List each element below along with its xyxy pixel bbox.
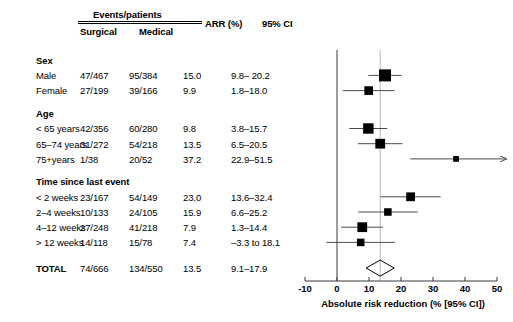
- row-surgical-2-weeks: 23/167: [80, 192, 108, 203]
- header-events-patients: Events/patients: [93, 9, 162, 20]
- row-medical-12-weeks: 15/78: [129, 237, 152, 248]
- forest-row-12-weeks: [326, 239, 394, 247]
- row-arr-male: 15.0: [183, 70, 201, 81]
- point-estimate-marker: [357, 222, 367, 232]
- row-arr-female: 9.9: [183, 85, 196, 96]
- group-title-time-since-last-event: Time since last event: [36, 176, 129, 187]
- header-col-surgical: Surgical: [80, 26, 117, 37]
- row-label-4-12-weeks: 4–12 weeks: [36, 222, 86, 233]
- row-ci-75-years: 22.9–51.5: [231, 154, 272, 165]
- x-axis-tick-label: 10: [364, 283, 375, 294]
- row-ci-12-weeks: –3.3 to 18.1: [231, 237, 280, 248]
- forest-row-65-74-years: [358, 139, 403, 149]
- row-medical-65-74-years: 54/218: [129, 139, 157, 150]
- row-surgical-total: 74/666: [80, 263, 108, 274]
- row-label-male: Male: [36, 70, 56, 81]
- total-summary-diamond: [366, 260, 394, 276]
- x-axis-tick-label: 40: [460, 283, 471, 294]
- row-arr-75-years: 37.2: [183, 154, 201, 165]
- row-arr-2-4-weeks: 15.9: [183, 207, 201, 218]
- row-surgical-12-weeks: 14/118: [80, 237, 108, 248]
- group-title-sex: Sex: [36, 55, 53, 66]
- forest-plot-table: Events/patients Surgical Medical ARR (%)…: [0, 0, 320, 322]
- row-medical-total: 134/550: [129, 263, 163, 274]
- forest-row-2-4-weeks: [358, 208, 418, 216]
- x-axis-tick-label: 20: [396, 283, 407, 294]
- row-surgical-male: 47/467: [80, 70, 108, 81]
- row-label-2-weeks: < 2 weeks: [36, 192, 78, 203]
- row-ci-2-4-weeks: 6.6–25.2: [231, 207, 267, 218]
- header-col-medical: Medical: [139, 26, 173, 37]
- row-ci-total: 9.1–17.9: [231, 263, 267, 274]
- row-label-75-years: 75+years: [36, 154, 75, 165]
- row-surgical-75-years: 1/38: [80, 154, 98, 165]
- header-rule-bottom: [78, 23, 202, 24]
- row-arr-65-74-years: 13.5: [183, 139, 201, 150]
- point-estimate-marker: [364, 86, 373, 95]
- point-estimate-marker: [363, 123, 373, 133]
- row-arr-total: 13.5: [183, 263, 201, 274]
- row-surgical-female: 27/199: [80, 85, 108, 96]
- forest-row-female: [343, 86, 395, 95]
- row-medical-4-12-weeks: 41/218: [129, 222, 157, 233]
- row-label-2-4-weeks: 2–4 weeks: [36, 207, 81, 218]
- row-ci-4-12-weeks: 1.3–14.4: [231, 222, 267, 233]
- point-estimate-marker: [453, 156, 459, 162]
- row-label-65-years: < 65 years: [36, 123, 80, 134]
- row-ci-65-years: 3.8–15.7: [231, 123, 267, 134]
- row-arr-12-weeks: 7.4: [183, 237, 196, 248]
- point-estimate-marker: [379, 69, 391, 81]
- row-ci-65-74-years: 6.5–20.5: [231, 139, 267, 150]
- header-rule-top: [78, 21, 202, 22]
- row-ci-female: 1.8–18.0: [231, 85, 267, 96]
- point-estimate-marker: [384, 208, 392, 216]
- row-medical-male: 95/384: [129, 70, 157, 81]
- row-arr-4-12-weeks: 7.9: [183, 222, 196, 233]
- row-medical-75-years: 20/52: [129, 154, 152, 165]
- forest-row-65-years: [349, 123, 387, 133]
- row-arr-65-years: 9.8: [183, 123, 196, 134]
- row-surgical-4-12-weeks: 27/248: [80, 222, 108, 233]
- forest-row-male: [368, 69, 401, 81]
- row-medical-2-4-weeks: 24/105: [129, 207, 157, 218]
- forest-row-4-12-weeks: [341, 222, 383, 232]
- x-axis-title: Absolute risk reduction (% [95% CI]): [321, 298, 485, 309]
- forest-row-2-weeks: [381, 192, 441, 201]
- row-surgical-65-years: 42/356: [80, 123, 108, 134]
- row-label-female: Female: [36, 85, 67, 96]
- point-estimate-marker: [375, 139, 385, 149]
- row-arr-2-weeks: 23.0: [183, 192, 201, 203]
- row-surgical-65-74-years: 31/272: [80, 139, 108, 150]
- group-title-age: Age: [36, 108, 54, 119]
- point-estimate-marker: [357, 239, 365, 247]
- row-label-total: TOTAL: [36, 263, 66, 274]
- x-axis-tick-label: 30: [428, 283, 439, 294]
- forest-row-75-years: [410, 156, 506, 162]
- row-label-12-weeks: > 12 weeks: [36, 237, 83, 248]
- row-medical-65-years: 60/280: [129, 123, 157, 134]
- row-ci-2-weeks: 13.6–32.4: [231, 192, 272, 203]
- point-estimate-marker: [406, 192, 415, 201]
- header-col-arr: ARR (%): [205, 18, 242, 29]
- row-medical-2-weeks: 54/149: [129, 192, 157, 203]
- header-col-ci: 95% CI: [262, 18, 293, 29]
- x-axis-tick-label: 50: [492, 283, 503, 294]
- row-surgical-2-4-weeks: 10/133: [80, 207, 108, 218]
- x-axis-tick-label: 0: [334, 283, 339, 294]
- row-ci-male: 9.8– 20.2: [231, 70, 270, 81]
- row-medical-female: 39/166: [129, 85, 157, 96]
